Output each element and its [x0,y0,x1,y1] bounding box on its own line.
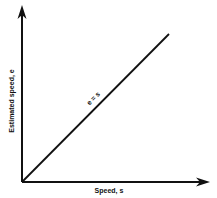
identity-line [22,34,169,182]
diagram-canvas: e = s Estimated speed, e Speed, s [0,0,217,198]
x-axis-label: Speed, s [95,187,124,195]
y-axis-label: Estimated speed, e [8,69,16,133]
